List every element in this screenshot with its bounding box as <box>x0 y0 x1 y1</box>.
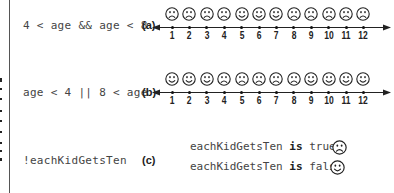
tick-dot <box>188 91 191 94</box>
left-arrow-icon <box>152 24 160 31</box>
happy-face-icon <box>356 71 370 85</box>
tick-dot <box>275 91 278 94</box>
statement-false: eachKidGetsTen is false <box>190 160 342 173</box>
tick-label: 6 <box>253 95 265 106</box>
edge-mark <box>0 120 2 122</box>
edge-mark <box>0 98 2 100</box>
tick-dot <box>327 91 330 94</box>
tick-dot <box>171 91 174 94</box>
tick-label: 8 <box>288 30 300 41</box>
tick-dot <box>362 26 365 29</box>
tick-dot <box>258 91 261 94</box>
happy-face-icon <box>235 6 249 20</box>
tick-label: 4 <box>218 30 230 41</box>
sad-face-icon <box>165 6 179 20</box>
tick-dot <box>275 26 278 29</box>
sad-face-icon <box>304 6 318 20</box>
tick-dot <box>223 91 226 94</box>
tick-label: 7 <box>270 30 282 41</box>
left-arrow-icon <box>152 89 160 96</box>
tick-dot <box>240 91 243 94</box>
tick-label: 5 <box>236 30 248 41</box>
happy-face-icon <box>269 6 283 20</box>
tick-label: 10 <box>323 30 335 41</box>
tick-label: 11 <box>340 95 352 106</box>
stmt-verb: is <box>289 140 302 153</box>
tick-label: 1 <box>166 30 178 41</box>
left-border-line <box>9 0 10 193</box>
sad-face-icon <box>287 71 301 85</box>
sad-face-icon <box>200 6 214 20</box>
happy-face-icon <box>182 71 196 85</box>
expression-c: !eachKidGetsTen <box>23 154 127 167</box>
happy-face-icon <box>200 71 214 85</box>
sad-face-icon <box>235 71 249 85</box>
tick-dot <box>310 26 313 29</box>
right-arrow-icon <box>383 89 391 96</box>
tick-dot <box>223 26 226 29</box>
tick-dot <box>362 91 365 94</box>
sad-face-icon <box>332 140 347 155</box>
sad-face-icon <box>356 6 370 20</box>
sad-face-icon <box>287 6 301 20</box>
tick-dot <box>240 26 243 29</box>
happy-face-icon <box>330 160 345 175</box>
stmt-subject: eachKidGetsTen <box>190 160 283 173</box>
edge-mark <box>0 142 2 144</box>
tick-dot <box>205 26 208 29</box>
tick-dot <box>345 91 348 94</box>
tick-dot <box>171 26 174 29</box>
happy-face-icon <box>165 71 179 85</box>
sad-face-icon <box>182 6 196 20</box>
expression-a: 4 < age && age < 8 <box>23 19 148 32</box>
sad-face-icon <box>252 71 266 85</box>
tick-label: 9 <box>305 95 317 106</box>
tick-dot <box>327 26 330 29</box>
happy-face-icon <box>322 71 336 85</box>
tick-label: 4 <box>218 95 230 106</box>
sad-face-icon <box>339 6 353 20</box>
tick-label: 11 <box>340 30 352 41</box>
tick-label: 12 <box>357 95 369 106</box>
edge-mark <box>0 158 2 161</box>
tag-c: (c) <box>142 154 155 166</box>
tick-label: 2 <box>183 30 195 41</box>
tick-dot <box>188 26 191 29</box>
stmt-verb: is <box>289 160 302 173</box>
stmt-subject: eachKidGetsTen <box>190 140 283 153</box>
edge-mark <box>0 110 2 112</box>
tick-dot <box>258 26 261 29</box>
statement-true: eachKidGetsTen is true <box>190 140 336 153</box>
happy-face-icon <box>339 71 353 85</box>
sad-face-icon <box>322 6 336 20</box>
tick-label: 1 <box>166 95 178 106</box>
tick-label: 7 <box>270 95 282 106</box>
tick-label: 3 <box>201 30 213 41</box>
tick-dot <box>205 91 208 94</box>
tick-label: 10 <box>323 95 335 106</box>
tick-label: 2 <box>183 95 195 106</box>
sad-face-icon <box>217 6 231 20</box>
tick-label: 3 <box>201 95 213 106</box>
edge-mark <box>0 131 2 133</box>
happy-face-icon <box>252 6 266 20</box>
tick-label: 12 <box>357 30 369 41</box>
edge-mark <box>0 78 2 82</box>
tick-dot <box>292 26 295 29</box>
number-line-b: 123456789101112 <box>155 70 388 110</box>
tick-dot <box>292 91 295 94</box>
happy-face-icon <box>304 71 318 85</box>
edge-mark <box>0 88 2 90</box>
right-arrow-icon <box>383 24 391 31</box>
tick-label: 5 <box>236 95 248 106</box>
edge-mark <box>0 150 2 152</box>
tick-dot <box>345 26 348 29</box>
expression-b: age < 4 || 8 < age <box>23 86 148 99</box>
tick-dot <box>310 91 313 94</box>
tick-label: 6 <box>253 30 265 41</box>
number-line-a: 123456789101112 <box>155 5 388 45</box>
tick-label: 9 <box>305 30 317 41</box>
tick-label: 8 <box>288 95 300 106</box>
sad-face-icon <box>269 71 283 85</box>
sad-face-icon <box>217 71 231 85</box>
